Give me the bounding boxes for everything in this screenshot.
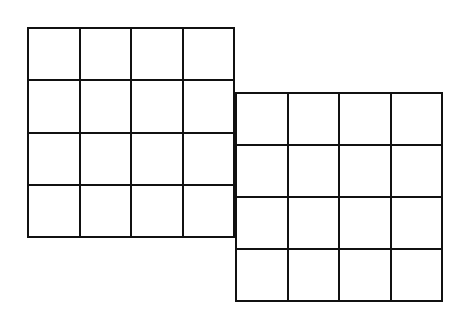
grid-cell: [28, 80, 80, 132]
grid-cell: [80, 185, 132, 237]
grid-cell: [80, 28, 132, 80]
grid-cell: [391, 145, 443, 197]
grid-cell: [131, 133, 183, 185]
grid-cell: [339, 145, 391, 197]
grid-cell: [236, 249, 288, 301]
right-grid: [235, 92, 443, 302]
grid-cell: [236, 197, 288, 249]
grid-cell: [339, 93, 391, 145]
grid-cell: [183, 133, 235, 185]
grid-cell: [236, 93, 288, 145]
grid-cell: [131, 185, 183, 237]
grid-cell: [391, 197, 443, 249]
grid-cell: [236, 145, 288, 197]
grid-cell: [183, 185, 235, 237]
grid-cell: [80, 80, 132, 132]
grid-cell: [183, 28, 235, 80]
left-grid: [27, 27, 235, 238]
grid-cell: [391, 249, 443, 301]
grid-cell: [391, 93, 443, 145]
grid-cell: [28, 185, 80, 237]
grid-cell: [131, 28, 183, 80]
grid-cell: [288, 93, 340, 145]
grid-cell: [288, 249, 340, 301]
grid-cell: [131, 80, 183, 132]
grid-cell: [28, 133, 80, 185]
grid-cell: [288, 145, 340, 197]
grid-cell: [183, 80, 235, 132]
grid-cell: [80, 133, 132, 185]
grid-cell: [339, 249, 391, 301]
grid-cell: [28, 28, 80, 80]
grid-cell: [339, 197, 391, 249]
grid-cell: [288, 197, 340, 249]
